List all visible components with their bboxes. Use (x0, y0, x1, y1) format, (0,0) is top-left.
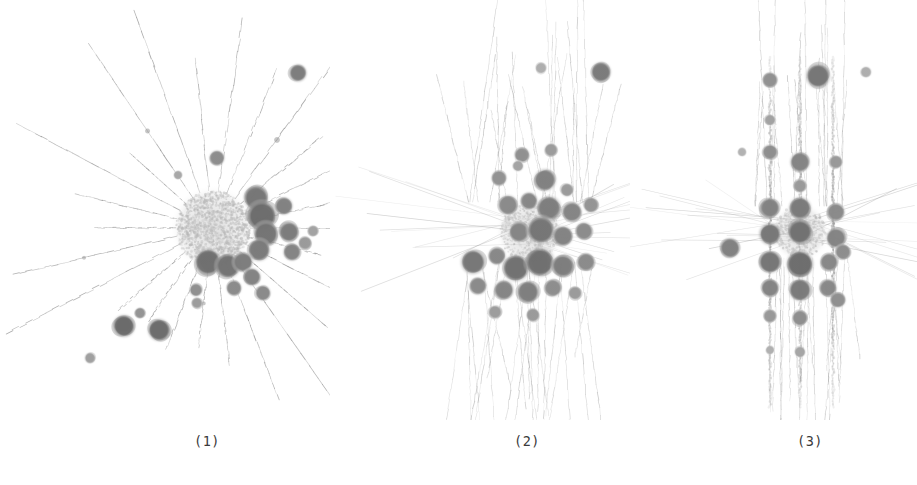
panel-2-caption: (2) (497, 433, 557, 449)
panel-2-scattered-cluster (330, 0, 630, 420)
panel-3-vertical-bands (630, 0, 917, 420)
panel-1-radial-star (0, 0, 330, 420)
panel-3-canvas (630, 0, 917, 420)
figure-root: (1) (2) (3) (0, 0, 917, 485)
panel-2-canvas (330, 0, 630, 420)
panel-1-canvas (0, 0, 330, 420)
panel-1-caption: (1) (177, 433, 237, 449)
panel-3-caption: (3) (780, 433, 840, 449)
